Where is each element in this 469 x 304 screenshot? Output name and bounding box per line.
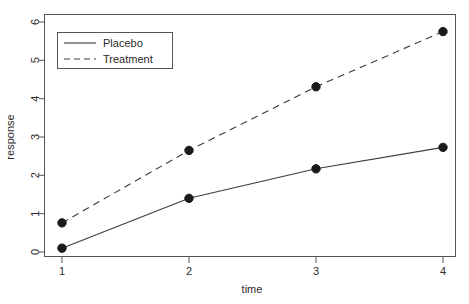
data-point [58, 219, 66, 227]
y-tick-label-2: 2 [29, 172, 41, 178]
data-point [439, 27, 447, 35]
legend-label-treatment: Treatment [103, 53, 153, 65]
y-tick-label-6: 6 [29, 19, 41, 25]
x-tick-label-3: 3 [313, 265, 319, 277]
data-point [185, 194, 193, 202]
x-axis-title: time [242, 283, 263, 295]
data-point [58, 244, 66, 252]
x-axis: 1 2 3 4 [59, 257, 446, 278]
y-tick-label-4: 4 [29, 96, 41, 102]
legend-label-placebo: Placebo [103, 37, 143, 49]
chart-container: 0 1 2 3 4 5 6 1 2 3 4 time [0, 0, 469, 304]
x-tick-label-1: 1 [59, 265, 65, 277]
data-point [439, 143, 447, 151]
data-point [312, 83, 320, 91]
y-tick-label-1: 1 [29, 211, 41, 217]
x-tick-label-4: 4 [440, 265, 446, 277]
data-point [312, 165, 320, 173]
data-point [185, 146, 193, 154]
y-tick-label-5: 5 [29, 57, 41, 63]
y-axis: 0 1 2 3 4 5 6 [29, 19, 45, 255]
y-tick-label-0: 0 [29, 249, 41, 255]
chart-legend: Placebo Treatment [58, 33, 173, 69]
line-chart: 0 1 2 3 4 5 6 1 2 3 4 time [0, 0, 469, 304]
series-line-placebo [62, 147, 443, 248]
x-tick-label-2: 2 [186, 265, 192, 277]
y-axis-title: response [4, 114, 16, 159]
series-points-placebo [58, 143, 447, 252]
y-tick-label-3: 3 [29, 134, 41, 140]
